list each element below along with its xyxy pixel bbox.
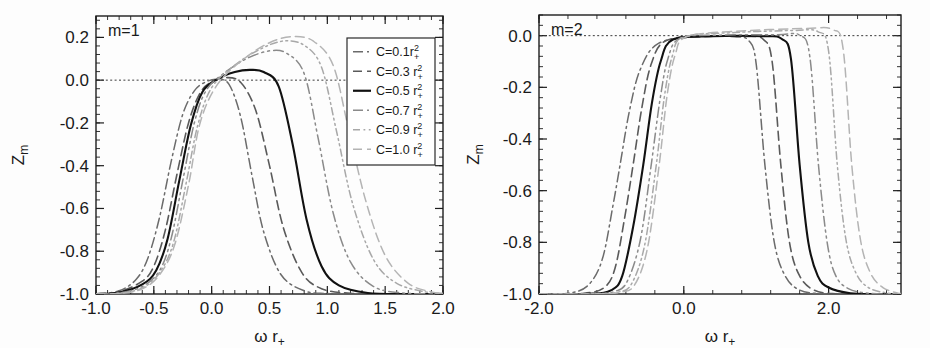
plot-frame — [539, 15, 901, 294]
x-tick-label: -0.5 — [139, 299, 168, 318]
y-tick-label: -0.2 — [503, 78, 532, 97]
y-tick-label: -1.0 — [503, 285, 532, 304]
x-tick-label: 0.5 — [258, 299, 282, 318]
x-tick-label: 2.0 — [817, 299, 841, 318]
x-axis-title: ω r+ — [705, 327, 736, 348]
y-axis-title: Zm — [465, 144, 486, 164]
curve-series-5 — [539, 28, 901, 295]
y-tick-label: 0.2 — [65, 28, 89, 47]
panel-tag: m=1 — [108, 22, 140, 39]
x-tick-label: 1.0 — [316, 299, 340, 318]
x-tick-label: 0.0 — [672, 299, 696, 318]
plot-panel-m1: -1.0-0.50.00.51.01.52.00.20.0-0.2-0.4-0.… — [0, 0, 465, 348]
curve-series-4 — [539, 30, 901, 294]
y-tick-label: 0.0 — [508, 27, 532, 46]
curve-series-1 — [539, 36, 901, 294]
legend: C=0.1r2+C=0.3 r2+C=0.5 r2+C=0.7 r2+C=0.9… — [347, 38, 435, 165]
curve-series-2 — [539, 36, 901, 294]
x-tick-label: 0.0 — [200, 299, 224, 318]
curve-series-0 — [539, 36, 901, 294]
y-tick-label: 0.0 — [65, 71, 89, 90]
y-tick-label: -0.6 — [60, 199, 89, 218]
y-tick-label: -0.4 — [503, 130, 532, 149]
y-tick-label: -0.6 — [503, 182, 532, 201]
y-tick-label: -0.2 — [60, 114, 89, 133]
plot-panel-m2: -2.00.02.00.0-0.2-0.4-0.6-0.8-1.0m=2ω r+… — [465, 0, 930, 348]
axis-ticks — [539, 15, 901, 294]
y-tick-label: -0.8 — [60, 242, 89, 261]
curve-series-3 — [539, 33, 901, 294]
figure-root: -1.0-0.50.00.51.01.52.00.20.0-0.2-0.4-0.… — [0, 0, 930, 348]
y-tick-label: -1.0 — [60, 285, 89, 304]
y-tick-label: -0.8 — [503, 233, 532, 252]
x-tick-label: 1.5 — [373, 299, 397, 318]
x-tick-label: 2.0 — [431, 299, 455, 318]
curve-group — [539, 28, 901, 295]
x-axis-title: ω r+ — [254, 327, 285, 348]
y-tick-label: -0.4 — [60, 157, 89, 176]
y-axis-title: Zm — [9, 145, 31, 165]
panel-tag: m=2 — [551, 21, 583, 38]
